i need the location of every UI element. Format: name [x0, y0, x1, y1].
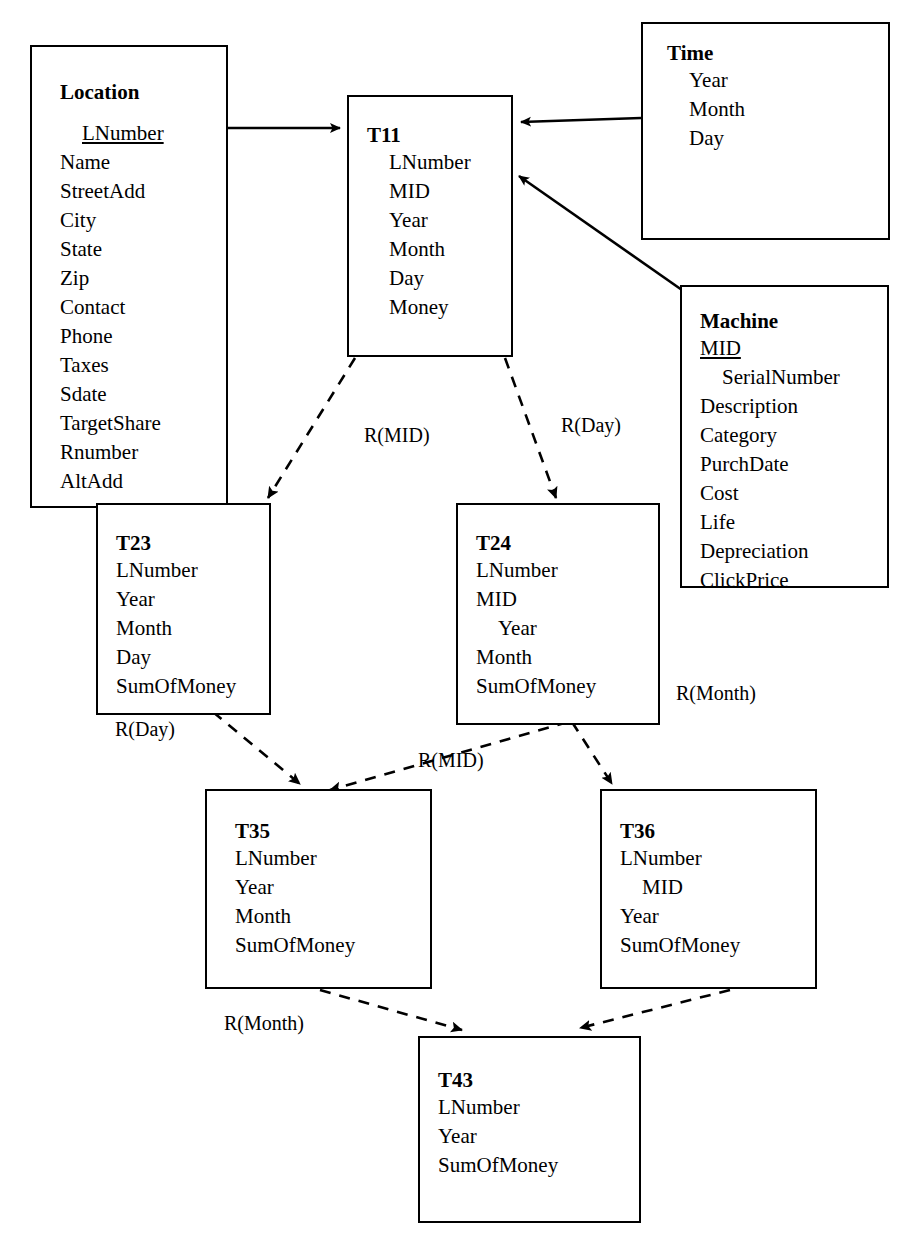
entity-title-location: Location: [60, 80, 226, 105]
entity-title-machine: Machine: [700, 309, 887, 334]
entity-time[interactable]: Time Year Month Day: [641, 22, 890, 240]
attribute-t36-1: MID: [620, 873, 815, 902]
attribute-t35-1: Year: [235, 873, 430, 902]
attribute-location-12: AltAdd: [60, 467, 226, 496]
edge-t11-to-t23: [268, 358, 355, 498]
entity-title-t23: T23: [116, 531, 269, 556]
attribute-time-2: Day: [667, 124, 888, 153]
attribute-t35-2: Month: [235, 902, 430, 931]
attribute-t24-1: MID: [476, 585, 658, 614]
edge-label-t11-to-t24: R(Day): [561, 414, 621, 436]
attribute-t11-1: MID: [367, 177, 511, 206]
edge-t11-to-t24: [505, 358, 556, 498]
attribute-machine-4: PurchDate: [700, 450, 887, 479]
attribute-t23-4: SumOfMoney: [116, 672, 269, 701]
attribute-machine-2: Description: [700, 392, 887, 421]
attribute-t43-0: LNumber: [438, 1093, 639, 1122]
schema-diagram: Location LNumber Name StreetAdd City Sta…: [0, 0, 910, 1258]
attribute-machine-6: Life: [700, 508, 887, 537]
entity-title-t43: T43: [438, 1068, 639, 1093]
attribute-location-2: StreetAdd: [60, 177, 226, 206]
entity-location[interactable]: Location LNumber Name StreetAdd City Sta…: [30, 45, 228, 508]
attribute-t35-0: LNumber: [235, 844, 430, 873]
entity-title-t11: T11: [367, 123, 511, 148]
entity-title-t36: T36: [620, 819, 815, 844]
entity-machine[interactable]: Machine MID SerialNumber Description Cat…: [680, 285, 889, 588]
edge-t24-to-t36: [572, 722, 612, 784]
entity-t11[interactable]: T11 LNumber MID Year Month Day Money: [347, 95, 513, 357]
attribute-t43-2: SumOfMoney: [438, 1151, 639, 1180]
attribute-machine-3: Category: [700, 421, 887, 450]
attribute-time-0: Year: [667, 66, 888, 95]
attribute-t23-2: Month: [116, 614, 269, 643]
attribute-t11-3: Month: [367, 235, 511, 264]
attribute-location-1: Name: [60, 148, 226, 177]
attribute-t11-4: Day: [367, 264, 511, 293]
entity-title-t24: T24: [476, 531, 658, 556]
attribute-location-6: Contact: [60, 293, 226, 322]
attribute-location-10: TargetShare: [60, 409, 226, 438]
attribute-machine-7: Depreciation: [700, 537, 887, 566]
attribute-t43-1: Year: [438, 1122, 639, 1151]
attribute-machine-8: ClickPrice: [700, 566, 887, 588]
entity-t24[interactable]: T24 LNumber MID Year Month SumOfMoney: [456, 503, 660, 725]
attribute-t11-2: Year: [367, 206, 511, 235]
attribute-location-3: City: [60, 206, 226, 235]
attribute-location-11: Rnumber: [60, 438, 226, 467]
attribute-t23-1: Year: [116, 585, 269, 614]
attribute-location-5: Zip: [60, 264, 226, 293]
attribute-t23-3: Day: [116, 643, 269, 672]
attribute-t24-2: Year: [476, 614, 658, 643]
attribute-location-7: Phone: [60, 322, 226, 351]
attribute-t24-0: LNumber: [476, 556, 658, 585]
attribute-time-1: Month: [667, 95, 888, 124]
attribute-t23-0: LNumber: [116, 556, 269, 585]
attribute-location-9: Sdate: [60, 380, 226, 409]
edge-label-t11-to-t23: R(MID): [364, 424, 430, 446]
attribute-machine-5: Cost: [700, 479, 887, 508]
attribute-machine-0: MID: [700, 334, 887, 363]
attribute-t36-3: SumOfMoney: [620, 931, 815, 960]
attribute-t11-0: LNumber: [367, 148, 511, 177]
edge-t36-to-t43: [580, 990, 730, 1028]
edge-label-t35-to-t43: R(Month): [224, 1012, 304, 1034]
entity-t43[interactable]: T43 LNumber Year SumOfMoney: [418, 1036, 641, 1223]
edge-t35-to-t43: [320, 990, 462, 1030]
entity-t23[interactable]: T23 LNumber Year Month Day SumOfMoney: [96, 503, 271, 715]
entity-title-time: Time: [667, 41, 888, 66]
entity-title-t35: T35: [235, 819, 430, 844]
edge-label-t23-to-t35: R(Day): [115, 718, 175, 740]
entity-t35[interactable]: T35 LNumber Year Month SumOfMoney: [205, 789, 432, 989]
attribute-t24-3: Month: [476, 643, 658, 672]
entity-t36[interactable]: T36 LNumber MID Year SumOfMoney: [600, 789, 817, 989]
attribute-t36-0: LNumber: [620, 844, 815, 873]
attribute-machine-1: SerialNumber: [700, 363, 887, 392]
attribute-location-8: Taxes: [60, 351, 226, 380]
edge-t23-to-t35: [213, 712, 300, 784]
attribute-location-4: State: [60, 235, 226, 264]
edge-time-to-t11: [521, 118, 641, 122]
attribute-t24-4: SumOfMoney: [476, 672, 658, 701]
attribute-t35-3: SumOfMoney: [235, 931, 430, 960]
edge-label-t24-to-t36: R(Month): [676, 682, 756, 704]
edge-label-t24-to-t35: R(MID): [418, 749, 484, 771]
attribute-t36-2: Year: [620, 902, 815, 931]
attribute-t11-5: Money: [367, 293, 511, 322]
attribute-location-0: LNumber: [60, 119, 226, 148]
